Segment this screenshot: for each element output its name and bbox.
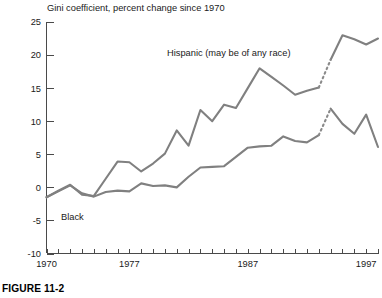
y-axis-tick-labels: -10-50510152025 [28,17,41,259]
y-tick-label: 15 [31,84,41,94]
y-axis-tick-marks [47,23,54,255]
figure-caption: FIGURE 11-2 [2,283,64,294]
series-label-hispanic: Hispanic (may be of any race) [167,48,291,58]
data-series-group [47,35,379,197]
series-line-black-break [319,109,331,135]
series-line-hispanic [47,68,319,197]
y-tick-label: 25 [31,17,41,27]
x-tick-label: 1997 [356,259,377,269]
y-tick-label: 10 [31,117,41,127]
y-tick-label: 0 [36,183,41,193]
chart-title: Gini coefficient, percent change since 1… [47,3,225,13]
x-tick-label: 1977 [119,259,140,269]
x-tick-label: 1970 [36,259,57,269]
x-axis-tick-labels: 1970197719871997 [36,259,376,269]
gini-coefficient-line-chart: Gini coefficient, percent change since 1… [0,0,382,298]
y-tick-label: -10 [28,249,41,259]
y-tick-label: 20 [31,50,41,60]
series-line-black-continued [331,109,378,147]
y-tick-label: -5 [33,216,41,226]
figure-container: Gini coefficient, percent change since 1… [0,0,382,298]
series-label-black: Black [61,212,84,222]
y-tick-label: 5 [36,150,41,160]
series-line-hispanic-continued [331,35,378,59]
x-axis-tick-marks [48,249,379,254]
series-line-hispanic-break [319,60,331,88]
x-tick-label: 1987 [237,259,258,269]
series-line-black [47,135,319,197]
